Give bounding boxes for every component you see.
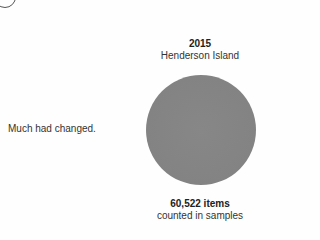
step-number-badge-icon bbox=[0, 0, 16, 8]
panel-header: 2015 Henderson Island bbox=[150, 38, 250, 62]
panel-footer: 60,522 items counted in samples bbox=[130, 198, 270, 222]
infographic-panel: Much had changed. 2015 Henderson Island … bbox=[0, 0, 320, 240]
item-count-sublabel: counted in samples bbox=[130, 210, 270, 222]
year-label: 2015 bbox=[150, 38, 250, 50]
quantity-circle bbox=[146, 75, 256, 185]
item-count-label: 60,522 items bbox=[130, 198, 270, 210]
location-label: Henderson Island bbox=[150, 50, 250, 62]
narrative-caption: Much had changed. bbox=[8, 123, 96, 135]
